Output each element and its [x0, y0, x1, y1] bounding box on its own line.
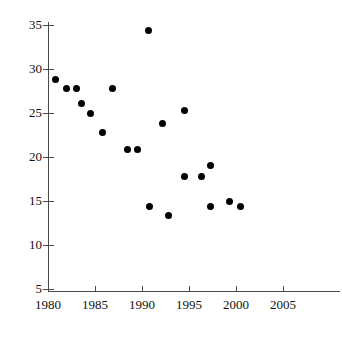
x-axis-tick-label: 1990: [119, 298, 165, 312]
data-point: [124, 146, 131, 153]
data-point: [73, 85, 80, 92]
y-axis-tick-label: 30: [4, 62, 42, 75]
data-point: [207, 203, 214, 210]
data-point: [165, 212, 172, 219]
data-point: [198, 173, 205, 180]
x-axis-tick-label: 1995: [166, 298, 212, 312]
data-point: [87, 110, 94, 117]
data-point: [52, 76, 59, 83]
data-point: [134, 146, 141, 153]
y-axis-tick-label: 10: [4, 238, 42, 251]
scatter-plot-figure: 5101520253035 198019851990199520002005: [0, 0, 342, 342]
y-axis-tick-label: 35: [4, 18, 42, 31]
x-axis-line: [48, 291, 340, 292]
data-point: [237, 203, 244, 210]
y-axis-tick-label: 20: [4, 150, 42, 163]
y-axis-labels: 5101520253035: [0, 0, 42, 342]
plot-area: [48, 22, 341, 291]
x-axis-tick-label: 2000: [213, 298, 259, 312]
data-point: [146, 203, 153, 210]
y-axis-tick-label: 25: [4, 106, 42, 119]
data-point: [181, 107, 188, 114]
x-axis-tick-label: 2005: [260, 298, 306, 312]
y-axis-tick-label: 15: [4, 194, 42, 207]
y-axis-tick-label: 5: [4, 282, 42, 295]
data-point: [145, 27, 152, 34]
data-point: [226, 198, 233, 205]
data-point: [181, 173, 188, 180]
data-point: [99, 129, 106, 136]
x-axis-tick-label: 1985: [72, 298, 118, 312]
x-axis-tick-label: 1980: [25, 298, 71, 312]
